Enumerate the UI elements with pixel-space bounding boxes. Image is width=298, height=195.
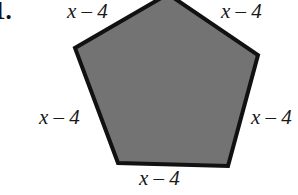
side-label-bottom: x – 4	[139, 167, 180, 189]
pentagon-polygon	[75, 0, 258, 166]
side-label-left: x – 4	[39, 106, 80, 128]
geometry-figure: 1. x – 4 x – 4 x – 4 x – 4 x – 4	[0, 0, 298, 195]
side-label-top-left: x – 4	[67, 0, 108, 22]
side-label-right: x – 4	[251, 106, 292, 128]
side-label-top-right: x – 4	[221, 0, 262, 22]
